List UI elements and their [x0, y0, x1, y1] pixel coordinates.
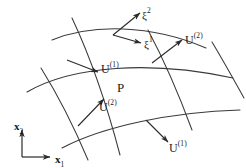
label-xi-1: ξ1 [144, 35, 153, 51]
curvilinear-coordinate-diagram: ξ2 ξ1 U(2) U(1) P U(2) U(1) x2 x1 [0, 0, 246, 168]
label-u-upper-1-superscript: (1) [110, 60, 119, 69]
tangent-basis-vectors [113, 13, 141, 43]
cartesian-axes [22, 130, 50, 157]
u1-upper-vector-arrow [67, 60, 98, 72]
xi2-tangent-arrow [113, 13, 140, 35]
label-axis-x1: x1 [55, 150, 64, 168]
label-u-upper-2-superscript: (2) [194, 31, 203, 40]
xi2-coordinate-curves [41, 18, 244, 160]
label-u-lower-2: U(2) [99, 98, 117, 114]
label-point-p: P [117, 79, 124, 95]
label-xi-2: ξ2 [142, 6, 151, 22]
label-u-upper-2: U(2) [185, 31, 203, 47]
label-u-upper-1: U(1) [101, 60, 119, 76]
xi1-curve-top [52, 29, 206, 48]
label-u-upper-2-base: U [185, 33, 194, 47]
xi1-curve-middle [27, 68, 233, 92]
xi2-curve-far-right [212, 42, 244, 98]
label-xi-2-superscript: 2 [147, 6, 151, 15]
label-u-upper-1-base: U [101, 62, 110, 76]
u2-upper-vector-arrow [152, 40, 182, 63]
label-axis-x2: x2 [14, 117, 23, 136]
xi1-coordinate-curves [27, 29, 240, 148]
label-u-lower-1-base: U [169, 141, 178, 155]
label-u-lower-1: U(1) [169, 139, 187, 155]
label-xi-1-superscript: 1 [149, 35, 153, 44]
xi1-curve-bottom [62, 110, 240, 148]
xi2-curve-middle [72, 18, 120, 155]
label-axis-x2-subscript: 2 [20, 127, 24, 136]
u1-lower-vector-arrow [146, 120, 168, 142]
label-u-lower-2-base: U [99, 100, 108, 114]
field-vectors [67, 40, 182, 142]
xi1-tangent-arrow [113, 35, 141, 43]
label-axis-x1-subscript: 1 [61, 160, 65, 168]
label-u-lower-1-superscript: (1) [178, 139, 187, 148]
label-point-p-base: P [117, 80, 124, 95]
label-u-lower-2-superscript: (2) [108, 98, 117, 107]
